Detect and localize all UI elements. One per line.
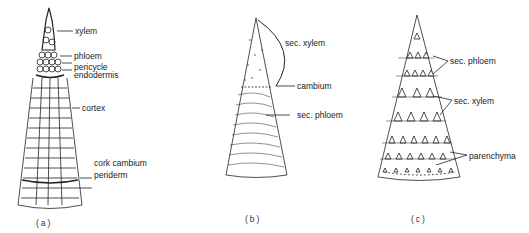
- label-cambium: cambium: [297, 82, 331, 91]
- label-sec-xylem-b: sec. xylem: [285, 39, 325, 48]
- label-sec-phloem-c: sec. phloem: [450, 57, 496, 66]
- label-sec-phloem-b: sec. phloem: [297, 111, 343, 120]
- panel-b-wedge: [226, 18, 287, 178]
- label-periderm: periderm: [94, 171, 128, 180]
- label-cortex: cortex: [82, 104, 105, 113]
- label-endodermis: endodermis: [74, 71, 118, 80]
- label-phloem-a: phloem: [74, 52, 102, 61]
- label-sec-xylem-c: sec. xylem: [454, 97, 494, 106]
- label-parenchyma: parenchyma: [469, 152, 516, 161]
- caption-c: (c): [411, 214, 427, 224]
- label-cork-cambium: cork cambium: [94, 159, 147, 168]
- panel-c-wedge: [378, 15, 460, 181]
- caption-a: (a): [36, 218, 52, 228]
- label-xylem-a: xylem: [75, 27, 97, 36]
- caption-b: (b): [245, 214, 261, 224]
